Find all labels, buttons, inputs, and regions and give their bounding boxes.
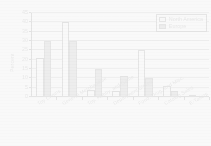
legend-item: Europe: [159, 24, 203, 29]
x-tick-mark: [133, 97, 134, 100]
legend-item: North America: [159, 17, 203, 22]
y-tick-label: 20: [22, 57, 28, 62]
bar-group: [31, 13, 56, 97]
chart-legend: North AmericaEurope: [156, 14, 207, 32]
y-tick-label: 30: [22, 38, 28, 43]
x-tick-mark: [82, 97, 83, 100]
y-tick-label: 45: [22, 10, 28, 15]
bar-group: [56, 13, 81, 97]
y-tick-label: 40: [22, 20, 28, 25]
bar: [36, 58, 44, 97]
legend-label: North America: [169, 17, 203, 22]
legend-swatch-na: [159, 17, 166, 22]
x-tick-mark: [107, 97, 108, 100]
y-tick-label: 10: [22, 76, 28, 81]
bar-chart: Percent 051015202530354045 Toy ChainsGen…: [0, 0, 211, 146]
legend-label: Europe: [169, 24, 186, 29]
y-axis-tick-labels: 051015202530354045: [14, 0, 28, 146]
legend-swatch-eu: [159, 24, 166, 29]
y-tick-label: 35: [22, 29, 28, 34]
bar: [69, 41, 77, 97]
x-tick-mark: [209, 97, 210, 100]
bar: [44, 41, 52, 97]
x-tick-mark: [184, 97, 185, 100]
x-tick-mark: [158, 97, 159, 100]
y-tick-label: 15: [22, 66, 28, 71]
x-tick-mark: [56, 97, 57, 100]
bar: [62, 22, 70, 97]
y-tick-label: 25: [22, 48, 28, 53]
